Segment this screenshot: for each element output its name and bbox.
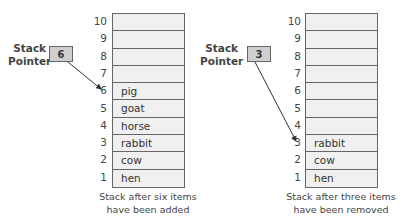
pointer-arrow-left xyxy=(68,62,101,89)
pointer-arrow-right xyxy=(255,62,296,141)
